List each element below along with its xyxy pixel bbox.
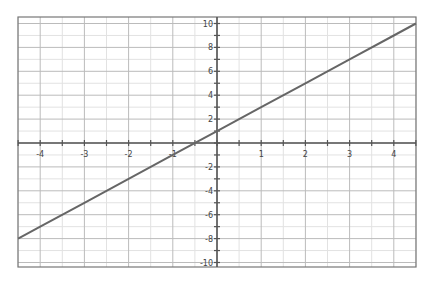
y-tick-label: -8 — [205, 235, 213, 244]
x-tick-label: 4 — [391, 150, 396, 159]
x-tick-label: 3 — [347, 150, 352, 159]
x-tick-label: -4 — [36, 150, 44, 159]
y-tick-label: 10 — [203, 20, 213, 29]
y-tick-label: -10 — [200, 259, 213, 268]
y-tick-label: -6 — [205, 211, 213, 220]
y-tick-label: 6 — [208, 67, 213, 76]
x-tick-label: -3 — [80, 150, 88, 159]
x-tick-label: 1 — [259, 150, 264, 159]
x-tick-label: -2 — [125, 150, 133, 159]
y-tick-label: 8 — [208, 43, 213, 52]
y-tick-label: -4 — [205, 187, 213, 196]
y-tick-label: -2 — [205, 163, 213, 172]
y-tick-label: 4 — [208, 91, 213, 100]
y-tick-label: 2 — [208, 115, 213, 124]
function-plot: -4-3-2-11234-10-8-6-4-2246810 — [0, 0, 433, 282]
x-tick-label: 2 — [303, 150, 308, 159]
